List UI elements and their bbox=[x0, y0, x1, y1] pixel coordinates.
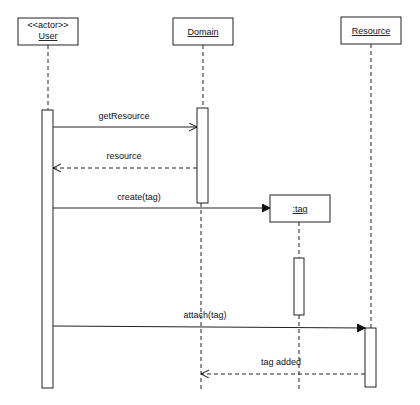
activation-domain bbox=[197, 108, 208, 203]
message-getresource: getResource bbox=[53, 111, 197, 127]
participant-user: <<actor>> User bbox=[18, 18, 78, 45]
message-create-tag: create(tag) bbox=[53, 192, 270, 208]
participant-resource: Resource bbox=[341, 17, 401, 44]
participant-tag: :tag bbox=[270, 195, 330, 222]
tag-name: :tag bbox=[292, 204, 307, 214]
message-label: getResource bbox=[98, 111, 149, 121]
message-resource-return: resource bbox=[53, 151, 197, 168]
domain-name: Domain bbox=[187, 27, 218, 37]
resource-name: Resource bbox=[352, 26, 391, 36]
user-name: User bbox=[38, 31, 57, 41]
message-tag-added-return: tag added bbox=[201, 357, 365, 374]
sequence-diagram: <<actor>> User Domain Resource :tag getR… bbox=[0, 0, 420, 405]
message-label: create(tag) bbox=[117, 192, 161, 202]
activation-resource bbox=[365, 328, 376, 387]
message-attach-tag: attach(tag) bbox=[53, 310, 365, 328]
message-label: attach(tag) bbox=[183, 310, 226, 320]
activation-user bbox=[42, 110, 53, 388]
message-label: tag added bbox=[261, 357, 301, 367]
participant-domain: Domain bbox=[173, 18, 233, 45]
activation-tag bbox=[294, 258, 304, 315]
message-label: resource bbox=[106, 151, 141, 161]
user-stereotype: <<actor>> bbox=[27, 20, 68, 30]
lifeline-domain bbox=[201, 45, 203, 390]
